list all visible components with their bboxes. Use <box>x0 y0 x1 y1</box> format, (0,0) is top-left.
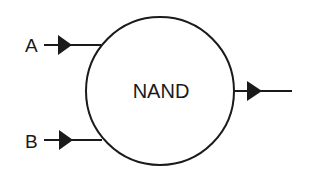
input-a-label: A <box>25 35 38 56</box>
input-b: B <box>25 130 102 152</box>
output-arrow-icon <box>247 81 262 101</box>
nand-gate-diagram: NAND A B <box>0 0 326 188</box>
input-b-arrow-icon <box>59 130 73 150</box>
input-b-label: B <box>25 131 38 152</box>
output <box>234 81 292 101</box>
input-a-arrow-icon <box>58 35 72 55</box>
input-a: A <box>25 35 101 56</box>
gate-label: NAND <box>133 80 190 102</box>
